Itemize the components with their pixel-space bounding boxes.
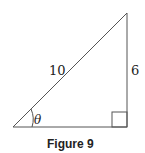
angle-theta-label: θ <box>34 113 42 127</box>
triangle <box>13 13 127 127</box>
figure-caption: Figure 9 <box>47 137 94 151</box>
opposite-side-label: 6 <box>131 63 139 78</box>
right-triangle-diagram: 10 6 θ Figure 9 <box>0 0 145 153</box>
angle-arc <box>31 109 33 127</box>
right-angle-marker <box>112 112 127 127</box>
hypotenuse-label: 10 <box>49 63 66 78</box>
